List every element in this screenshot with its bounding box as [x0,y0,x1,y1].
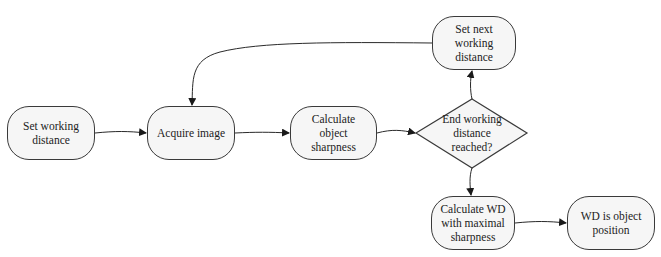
node-acquire-image: Acquire image [147,106,235,160]
node-label: Set working distance [23,119,79,147]
node-set-next-working-distance: Set next working distance [432,16,516,70]
node-label: Set next working distance [436,22,512,64]
edge-next-wd-to-acquire [192,43,432,105]
node-label: Acquire image [157,126,225,140]
node-set-working-distance: Set working distance [7,106,95,160]
node-wd-is-object-position: WD is object position [567,196,655,250]
node-calculate-wd-maximal-sharpness: Calculate WD with maximal sharpness [431,196,515,250]
node-label: Calculate WD with maximal sharpness [440,202,505,244]
edge-calc-wd-to-result [515,222,566,224]
edge-decision-to-next-wd [471,71,473,99]
edge-decision-to-calc-wd [470,168,472,195]
node-label: Calculate object sharpness [297,112,370,154]
edge-set-wd-to-acquire [95,132,146,134]
node-end-working-distance-decision: End working distance reached? [432,108,512,158]
node-label: End working distance reached? [442,112,502,154]
edge-sharpness-to-decision [377,130,415,133]
node-calculate-object-sharpness: Calculate object sharpness [290,106,377,160]
edge-acquire-to-sharpness [235,132,289,133]
node-label: WD is object position [581,209,642,237]
